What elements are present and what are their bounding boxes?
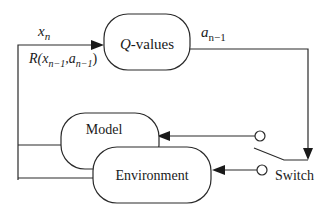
environment-label: Environment xyxy=(115,168,188,183)
switch-label: Switch xyxy=(275,168,314,183)
state-label: xn xyxy=(37,23,51,42)
q-values-label: Q-values xyxy=(120,36,174,52)
reward-label: R(xn−1,an−1) xyxy=(28,51,97,69)
action-label: an−1 xyxy=(201,24,226,43)
switch-lever xyxy=(254,148,308,160)
action-line xyxy=(188,49,308,158)
model-label: Model xyxy=(86,122,123,137)
switch-contact-environment xyxy=(257,165,267,175)
arrowhead-into-qvalues xyxy=(91,40,104,50)
arrowhead-into-environment xyxy=(212,165,225,175)
arrowhead-into-switch xyxy=(303,148,313,160)
switch-contact-model xyxy=(255,131,265,141)
diagram-canvas: Q-values Model Environment xn R(xn−1,an−… xyxy=(0,0,328,216)
